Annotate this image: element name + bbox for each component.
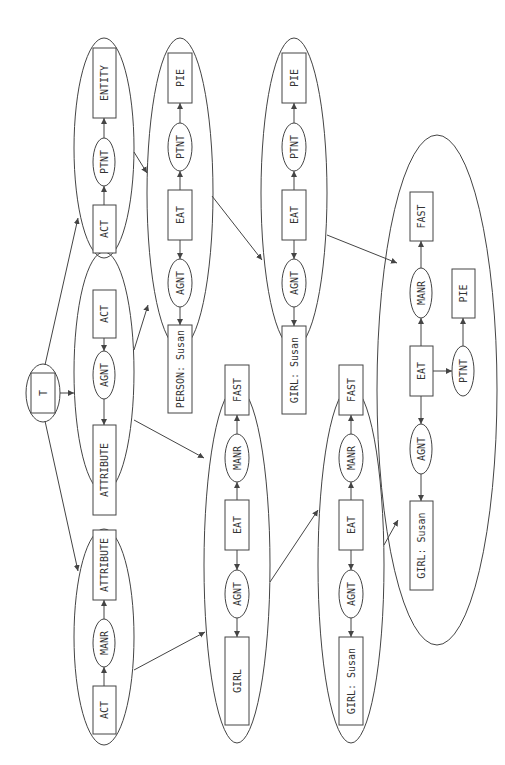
derivation-arrow-e-to-g <box>270 510 318 582</box>
concept-node-h7[interactable]: GIRL: Susan <box>410 501 433 590</box>
concept-label: ENTITY <box>99 65 110 101</box>
concept-node-e5[interactable]: GIRL <box>225 637 249 725</box>
relation-label: AGNT <box>232 582 243 606</box>
derivation-arrow-t-to-a <box>45 218 78 365</box>
relation-node-g2[interactable]: MANR <box>339 434 363 482</box>
concept-label: GIRL: Susan <box>346 648 357 714</box>
concept-node-e1[interactable]: FAST <box>225 365 249 415</box>
concept-node-a3[interactable]: ACT <box>93 205 116 253</box>
concept-label: FAST <box>346 378 357 402</box>
derivation-arrow-t-to-c <box>45 421 78 571</box>
concept-node-e3[interactable]: EAT <box>225 500 249 550</box>
relation-label: PTNT <box>458 359 469 383</box>
relation-label: PTNT <box>175 135 186 159</box>
relation-node-h2[interactable]: MANR <box>410 268 432 318</box>
relation-label: AGNT <box>289 271 300 295</box>
derivation-arrow-b-to-d <box>134 305 148 350</box>
concept-label: EAT <box>416 362 427 380</box>
concept-node-c3[interactable]: ACT <box>93 686 116 734</box>
derivation-arrow-d-to-f <box>212 196 262 260</box>
relation-label: AGNT <box>416 437 427 461</box>
node-layer: TENTITYPTNTACTACTAGNTATTRIBUTEATTRIBUTEM… <box>26 48 475 734</box>
relation-label: AGNT <box>346 582 357 606</box>
relation-node-h4[interactable]: PTNT <box>452 346 474 396</box>
relation-node-f2[interactable]: PTNT <box>282 123 306 171</box>
concept-node-g3[interactable]: EAT <box>339 500 363 550</box>
derivation-arrow-a-to-d <box>134 152 147 173</box>
concept-node-f5[interactable]: GIRL: Susan <box>282 326 306 414</box>
concept-label: EAT <box>289 206 300 224</box>
relation-label: MANR <box>99 630 110 655</box>
concept-label: ATTRIBUTE <box>99 538 110 592</box>
relation-node-h6[interactable]: AGNT <box>410 424 432 474</box>
relation-label: MANR <box>232 445 243 470</box>
concept-node-g1[interactable]: FAST <box>339 365 363 415</box>
relation-node-c2[interactable]: MANR <box>93 619 115 667</box>
concept-label: FAST <box>416 204 427 228</box>
concept-label: PIE <box>175 69 186 87</box>
concept-node-d5[interactable]: PERSON: Susan <box>168 325 192 413</box>
relation-node-f4[interactable]: AGNT <box>282 259 306 307</box>
relation-label: AGNT <box>175 271 186 295</box>
relation-label: MANR <box>416 280 427 305</box>
relation-label: PTNT <box>289 135 300 159</box>
concept-label: FAST <box>232 378 243 402</box>
relation-label: MANR <box>346 445 357 470</box>
context-h[interactable] <box>377 135 497 645</box>
relation-node-a2[interactable]: PTNT <box>93 138 115 186</box>
root-node-t[interactable]: T <box>26 364 60 422</box>
concept-node-d1[interactable]: PIE <box>168 53 192 103</box>
derivation-arrow-b-to-e <box>134 420 204 458</box>
concept-label: EAT <box>175 206 186 224</box>
conceptual-graph-diagram: TENTITYPTNTACTACTAGNTATTRIBUTEATTRIBUTEM… <box>0 0 505 765</box>
concept-label: GIRL: Susan <box>289 337 300 403</box>
concept-node-f3[interactable]: EAT <box>282 190 306 240</box>
concept-node-g5[interactable]: GIRL: Susan <box>339 637 363 725</box>
derivation-arrow-c-to-e <box>134 632 205 670</box>
root-label: T <box>38 390 49 396</box>
concept-label: PIE <box>458 284 469 302</box>
relation-node-d2[interactable]: PTNT <box>168 123 192 171</box>
relation-node-g4[interactable]: AGNT <box>339 570 363 618</box>
concept-node-h3[interactable]: EAT <box>410 346 433 396</box>
relation-node-b2[interactable]: AGNT <box>93 351 115 399</box>
concept-label: ACT <box>99 305 110 323</box>
concept-label: EAT <box>346 516 357 534</box>
relation-node-e2[interactable]: MANR <box>225 434 249 482</box>
concept-label: ATTRIBUTE <box>99 443 110 497</box>
concept-node-b3[interactable]: ATTRIBUTE <box>93 425 116 515</box>
concept-node-a1[interactable]: ENTITY <box>93 48 116 118</box>
concept-node-b1[interactable]: ACT <box>93 290 116 338</box>
concept-label: GIRL <box>232 669 243 693</box>
relation-node-e4[interactable]: AGNT <box>225 570 249 618</box>
concept-node-f1[interactable]: PIE <box>282 53 306 103</box>
concept-node-h1[interactable]: FAST <box>410 192 433 241</box>
concept-label: PERSON: Susan <box>175 330 186 408</box>
concept-label: GIRL: Susan <box>416 512 427 578</box>
relation-label: PTNT <box>99 150 110 174</box>
concept-label: ACT <box>99 701 110 719</box>
concept-label: PIE <box>289 69 300 87</box>
relation-node-d4[interactable]: AGNT <box>168 259 192 307</box>
relation-label: AGNT <box>99 363 110 387</box>
concept-node-c1[interactable]: ATTRIBUTE <box>93 530 116 600</box>
concept-label: EAT <box>232 516 243 534</box>
concept-label: ACT <box>99 220 110 238</box>
concept-node-h5[interactable]: PIE <box>452 269 475 318</box>
concept-node-d3[interactable]: EAT <box>168 190 192 240</box>
